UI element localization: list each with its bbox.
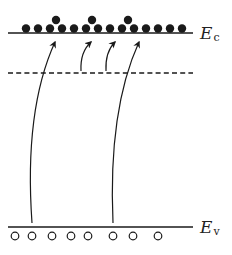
- electron-dot: [166, 24, 174, 32]
- hole-circle: [28, 232, 36, 240]
- hole-circle: [48, 232, 56, 240]
- electron-dot: [70, 24, 78, 32]
- hole-circle: [67, 232, 75, 240]
- valence-holes: [11, 232, 162, 240]
- electron-dot: [34, 24, 42, 32]
- electron-dot: [130, 24, 138, 32]
- electron-dot: [88, 16, 96, 24]
- electron-dot: [52, 16, 60, 24]
- trap-to-conduction-2-arrow: [106, 42, 115, 71]
- energy-band-diagram: [0, 0, 232, 255]
- transition-arrows: [30, 42, 139, 223]
- valence-band-label: Ev: [200, 219, 220, 236]
- electron-dot: [178, 24, 186, 32]
- electron-dot: [154, 24, 162, 32]
- energy-levels: [8, 33, 193, 227]
- electron-dot: [124, 16, 132, 24]
- electron-dot: [142, 24, 150, 32]
- conduction-electrons: [22, 16, 186, 33]
- electron-dot: [118, 24, 126, 32]
- hole-circle: [154, 232, 162, 240]
- valence-to-conduction-2-arrow: [112, 42, 139, 223]
- electron-dot: [22, 24, 30, 32]
- hole-circle: [109, 232, 117, 240]
- electron-dot: [46, 24, 54, 32]
- trap-to-conduction-1-arrow: [81, 42, 91, 71]
- electron-dot: [106, 24, 114, 32]
- hole-circle: [84, 232, 92, 240]
- conduction-band-label: Ec: [200, 25, 220, 42]
- hole-circle: [129, 232, 137, 240]
- electron-dot: [82, 24, 90, 32]
- hole-circle: [11, 232, 19, 240]
- electron-dot: [94, 24, 102, 32]
- valence-to-conduction-1-arrow: [30, 42, 55, 223]
- electron-dot: [58, 24, 66, 32]
